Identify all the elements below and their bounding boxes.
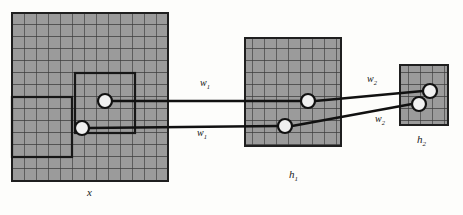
x-upper-node — [98, 94, 112, 108]
weight-label-w2-upper: w2 — [367, 73, 377, 86]
h2-upper-node — [423, 84, 437, 98]
layer-label-x: x — [87, 186, 92, 201]
h2-lower-node — [412, 97, 426, 111]
diagram-canvas — [0, 0, 463, 215]
layer-label-h2: h2 — [417, 133, 426, 148]
layer-label-h1: h1 — [289, 168, 298, 183]
weight-label-w1-upper: w1 — [200, 77, 210, 90]
receptive-field-diagram: w1 w1 w2 w2 x h1 h2 — [0, 0, 463, 215]
h1-upper-node — [301, 94, 315, 108]
h1-lower-node — [278, 119, 292, 133]
layer-h1-grid — [245, 38, 341, 146]
weight-label-w1-lower: w1 — [197, 127, 207, 140]
x-lower-node — [75, 121, 89, 135]
weight-label-w2-lower: w2 — [375, 113, 385, 126]
